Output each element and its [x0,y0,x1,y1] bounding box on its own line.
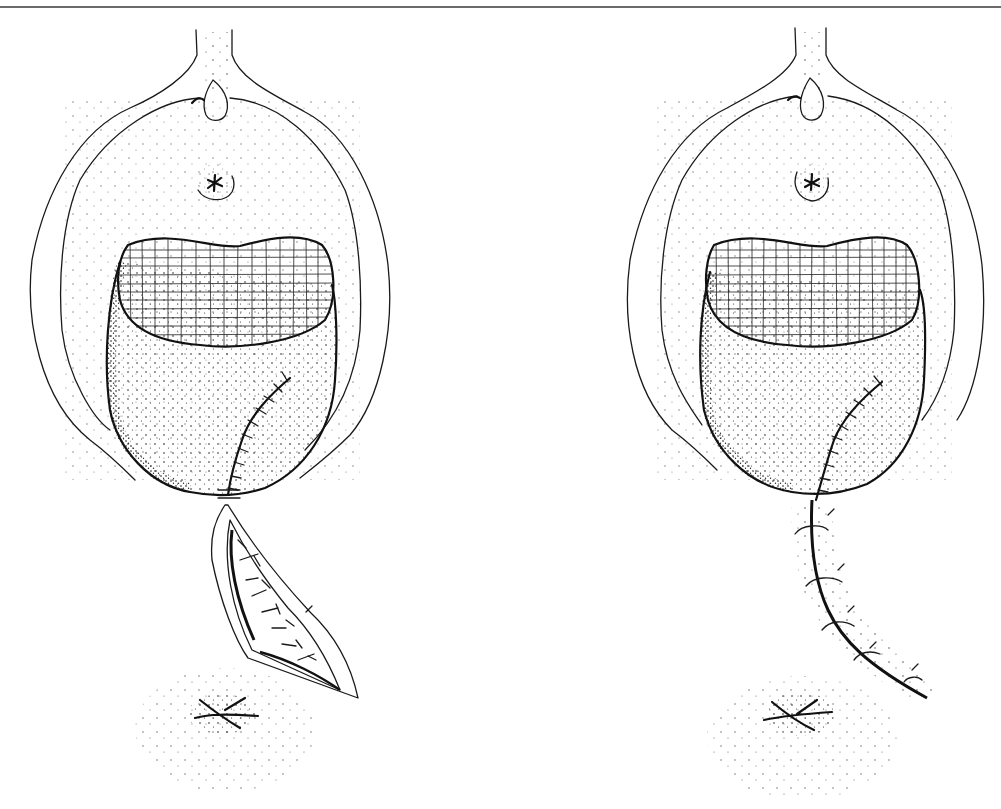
illustration-right [500,0,1001,809]
neck [800,32,824,92]
stellate-wound [135,668,315,792]
closed-strip [792,500,937,700]
illustration-left [0,0,500,809]
stippled-sac [107,262,337,495]
stippled-sac [700,272,925,494]
stellate-wound [707,676,897,800]
panel-left: Abdominal wall view: stippled sac with s… [0,0,500,809]
circular-wound [793,164,831,202]
circular-wound [196,164,234,202]
panel-right: Same view after closure: suture line con… [500,0,1000,809]
